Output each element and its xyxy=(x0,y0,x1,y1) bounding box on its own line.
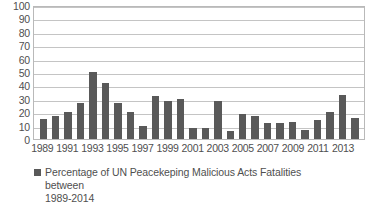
x-axis-slot: 1999 xyxy=(161,142,174,156)
bar-slot xyxy=(149,7,161,139)
bar[interactable] xyxy=(102,83,109,139)
bar-slot xyxy=(162,7,174,139)
bar-slot xyxy=(37,7,49,139)
legend-swatch-icon xyxy=(34,169,41,176)
bar-slot xyxy=(62,7,74,139)
bar[interactable] xyxy=(289,122,296,139)
bar[interactable] xyxy=(339,95,346,139)
bar[interactable] xyxy=(64,112,71,139)
bar-slot xyxy=(249,7,261,139)
bar[interactable] xyxy=(189,128,196,139)
bar-slot xyxy=(224,7,236,139)
y-axis: 1009080706050403020100 xyxy=(4,6,30,140)
bar-slot xyxy=(74,7,86,139)
bar[interactable] xyxy=(164,101,171,139)
y-axis-tick-label: 60 xyxy=(19,54,30,65)
x-axis: 1989199119931995199719992001200320052007… xyxy=(33,142,365,156)
bar-slot xyxy=(336,7,348,139)
plot-wrapper: 1009080706050403020100 19891991199319951… xyxy=(0,6,368,152)
bar-slot xyxy=(212,7,224,139)
x-axis-slot: 2001 xyxy=(186,142,199,156)
bar-chart-figure: 1009080706050403020100 19891991199319951… xyxy=(0,0,368,206)
bar-slot xyxy=(299,7,311,139)
x-axis-slot: 1995 xyxy=(111,142,124,156)
x-axis-slot: 1997 xyxy=(136,142,149,156)
y-axis-tick-label: 100 xyxy=(13,1,30,12)
bar[interactable] xyxy=(276,123,283,139)
bar[interactable] xyxy=(52,116,59,139)
bar[interactable] xyxy=(264,123,271,139)
bar[interactable] xyxy=(239,114,246,139)
y-axis-tick-label: 0 xyxy=(24,135,30,146)
legend-label-line1: Percentage of UN Peacekeping Malicious A… xyxy=(45,166,301,191)
bar[interactable] xyxy=(89,72,96,139)
bar[interactable] xyxy=(40,119,47,139)
y-axis-tick-label: 50 xyxy=(19,68,30,79)
legend-entry: Percentage of UN Peacekeping Malicious A… xyxy=(34,166,334,205)
bar-slot xyxy=(274,7,286,139)
y-axis-tick-label: 10 xyxy=(19,121,30,132)
x-axis-slot: 2007 xyxy=(262,142,275,156)
bar[interactable] xyxy=(301,130,308,139)
y-axis-tick-label: 70 xyxy=(19,41,30,52)
bar[interactable] xyxy=(227,131,234,139)
bar-slot xyxy=(237,7,249,139)
bar[interactable] xyxy=(77,103,84,139)
bar[interactable] xyxy=(351,118,358,139)
x-axis-slot: 1989 xyxy=(36,142,49,156)
bar-slot xyxy=(261,7,273,139)
x-axis-slot: 1993 xyxy=(86,142,99,156)
y-axis-tick-label: 90 xyxy=(19,14,30,25)
x-axis-slot xyxy=(349,142,362,156)
bar[interactable] xyxy=(202,128,209,139)
bar-slot xyxy=(311,7,323,139)
y-axis-tick-label: 30 xyxy=(19,95,30,106)
legend-label-line2: 1989-2014 xyxy=(45,192,94,204)
chart-legend: Percentage of UN Peacekeping Malicious A… xyxy=(0,166,368,205)
x-axis-slot: 1991 xyxy=(61,142,74,156)
bar[interactable] xyxy=(251,116,258,139)
y-axis-tick-label: 40 xyxy=(19,81,30,92)
bar[interactable] xyxy=(326,112,333,139)
bar-slot xyxy=(199,7,211,139)
bar-slot xyxy=(49,7,61,139)
bar-slot xyxy=(174,7,186,139)
bar-slot xyxy=(99,7,111,139)
bar[interactable] xyxy=(214,101,221,139)
bar-slot xyxy=(324,7,336,139)
bar[interactable] xyxy=(314,120,321,139)
bar-slot xyxy=(187,7,199,139)
x-axis-slot: 2011 xyxy=(312,142,325,156)
bar-slot xyxy=(87,7,99,139)
bar-series xyxy=(34,7,364,139)
x-axis-slot: 2009 xyxy=(287,142,300,156)
y-axis-tick-label: 20 xyxy=(19,108,30,119)
x-axis-slot: 2013 xyxy=(337,142,350,156)
x-axis-slot: 2003 xyxy=(211,142,224,156)
bar-slot xyxy=(286,7,298,139)
bar[interactable] xyxy=(152,96,159,139)
bar-slot xyxy=(137,7,149,139)
bar[interactable] xyxy=(177,99,184,139)
bar[interactable] xyxy=(114,103,121,139)
bar[interactable] xyxy=(127,112,134,139)
legend-label: Percentage of UN Peacekeping Malicious A… xyxy=(45,166,334,205)
bar-slot xyxy=(112,7,124,139)
bar-slot xyxy=(124,7,136,139)
bar-slot xyxy=(349,7,361,139)
y-axis-tick-label: 80 xyxy=(19,28,30,39)
bar[interactable] xyxy=(139,126,146,139)
plot-area xyxy=(33,6,365,140)
x-axis-slot: 2005 xyxy=(237,142,250,156)
